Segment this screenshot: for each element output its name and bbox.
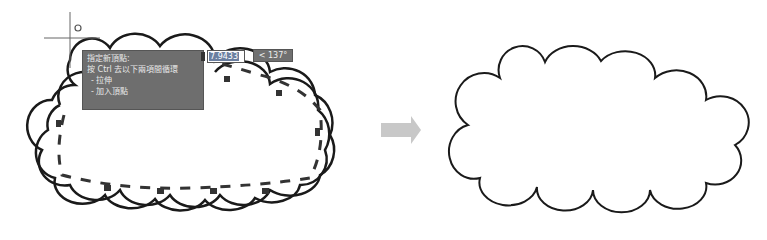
tooltip-line: - 拉伸 — [87, 75, 199, 86]
right-arrow-icon — [381, 116, 421, 144]
osnap-circle-icon — [75, 25, 81, 31]
grip-marker[interactable] — [201, 52, 205, 61]
angle-input[interactable]: < 137° — [253, 49, 293, 62]
length-input[interactable]: 7.9433 — [207, 50, 245, 63]
tooltip-line: 按 Ctrl 去以下兩項間循環 — [87, 64, 199, 75]
tooltip-line: - 加入頂點 — [87, 86, 199, 97]
command-tooltip: 指定新頂點: 按 Ctrl 去以下兩項間循環 - 拉伸 - 加入頂點 — [82, 50, 204, 110]
tooltip-line: 指定新頂點: — [87, 53, 199, 64]
length-value: 7.9433 — [209, 52, 239, 61]
result-cloud — [449, 46, 749, 212]
